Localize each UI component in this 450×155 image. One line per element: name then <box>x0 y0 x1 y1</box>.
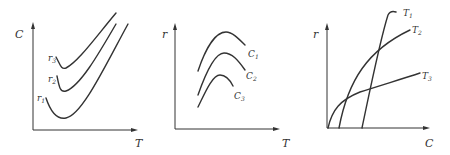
curve-label-r3: r3 <box>48 53 56 64</box>
y-axis-arrow-icon <box>325 23 329 30</box>
panel-2: r T C1 C2 C3 <box>162 23 291 150</box>
y-axis-label: r <box>313 28 319 41</box>
curve-label-C3: C3 <box>234 91 245 102</box>
x-axis-label: C <box>425 137 434 150</box>
figure-three-panels: C T r3 r2 r1 r T C1 <box>0 0 450 155</box>
curve-T1 <box>362 11 396 128</box>
y-axis-arrow-icon <box>173 23 177 30</box>
x-axis-arrow-icon <box>273 127 280 131</box>
curve-label-C1: C1 <box>248 49 259 60</box>
curve-label-r2: r2 <box>48 74 56 85</box>
panel-3: r C T1 T2 T3 <box>313 8 434 150</box>
curve-C1 <box>198 32 245 71</box>
curve-label-T1: T1 <box>403 8 413 19</box>
curve-label-T2: T2 <box>412 25 422 36</box>
x-axis-arrow-icon <box>131 128 138 132</box>
y-axis-arrow-icon <box>31 22 35 29</box>
x-axis-label: T <box>282 137 291 150</box>
x-axis-arrow-icon <box>423 126 430 130</box>
panel-1: C T r3 r2 r1 <box>15 13 144 150</box>
curve-label-r1: r1 <box>37 93 45 104</box>
curve-label-T3: T3 <box>422 71 432 82</box>
diagram-svg: C T r3 r2 r1 r T C1 <box>0 0 450 155</box>
curve-r2 <box>57 24 116 91</box>
curve-label-C2: C2 <box>246 71 257 82</box>
y-axis-label: C <box>15 28 24 41</box>
y-axis-label: r <box>162 28 168 41</box>
curve-C2 <box>198 53 245 95</box>
curve-T3 <box>328 73 420 128</box>
x-axis-label: T <box>135 137 144 150</box>
